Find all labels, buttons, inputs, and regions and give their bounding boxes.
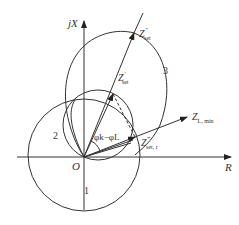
curve-2-label: 2 <box>53 131 58 141</box>
curve-1-label: 1 <box>84 186 89 196</box>
zset2-label: Z″set <box>139 27 151 41</box>
angle-arc <box>91 141 100 151</box>
zset1-label: Z′set <box>118 71 129 85</box>
curve-3-label: 3 <box>163 66 168 76</box>
jx-axis-label: jX <box>68 18 78 29</box>
angle-label: φk−φL <box>94 133 119 142</box>
r-axis-label: R <box>225 162 232 173</box>
vector-zlmin <box>135 117 187 137</box>
zlmin-label: ZL, min <box>192 112 214 124</box>
zsetr-label: Z‴set, r <box>141 136 158 150</box>
origin-label: O <box>72 161 80 172</box>
